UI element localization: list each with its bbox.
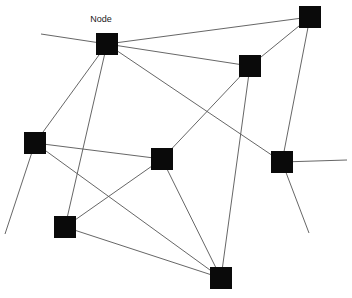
edge-n1-n4 bbox=[35, 44, 107, 143]
network-diagram bbox=[0, 0, 352, 298]
edge-n4-n8 bbox=[35, 143, 221, 278]
node-n8 bbox=[210, 267, 232, 289]
edge-n5-n8 bbox=[162, 159, 221, 278]
edges-layer bbox=[35, 17, 310, 278]
edge-n7-n5 bbox=[65, 159, 162, 227]
node-label: Node bbox=[90, 14, 112, 24]
stub-edges-layer bbox=[5, 34, 347, 234]
node-n5 bbox=[151, 148, 173, 170]
edge-n1-n3 bbox=[107, 44, 250, 66]
edge-n1-n2 bbox=[107, 17, 310, 44]
edge-n3-n5 bbox=[162, 66, 250, 159]
edge-n3-n8 bbox=[221, 66, 250, 278]
node-n3 bbox=[239, 55, 261, 77]
node-n2 bbox=[299, 6, 321, 28]
edge-n7-n8 bbox=[65, 227, 221, 278]
node-n7 bbox=[54, 216, 76, 238]
edge-n2-n6 bbox=[282, 17, 310, 162]
edge-n1-n7 bbox=[65, 44, 107, 227]
node-n1 bbox=[96, 33, 118, 55]
node-n6 bbox=[271, 151, 293, 173]
node-n4 bbox=[24, 132, 46, 154]
edge-stub-n4-1 bbox=[5, 143, 35, 234]
